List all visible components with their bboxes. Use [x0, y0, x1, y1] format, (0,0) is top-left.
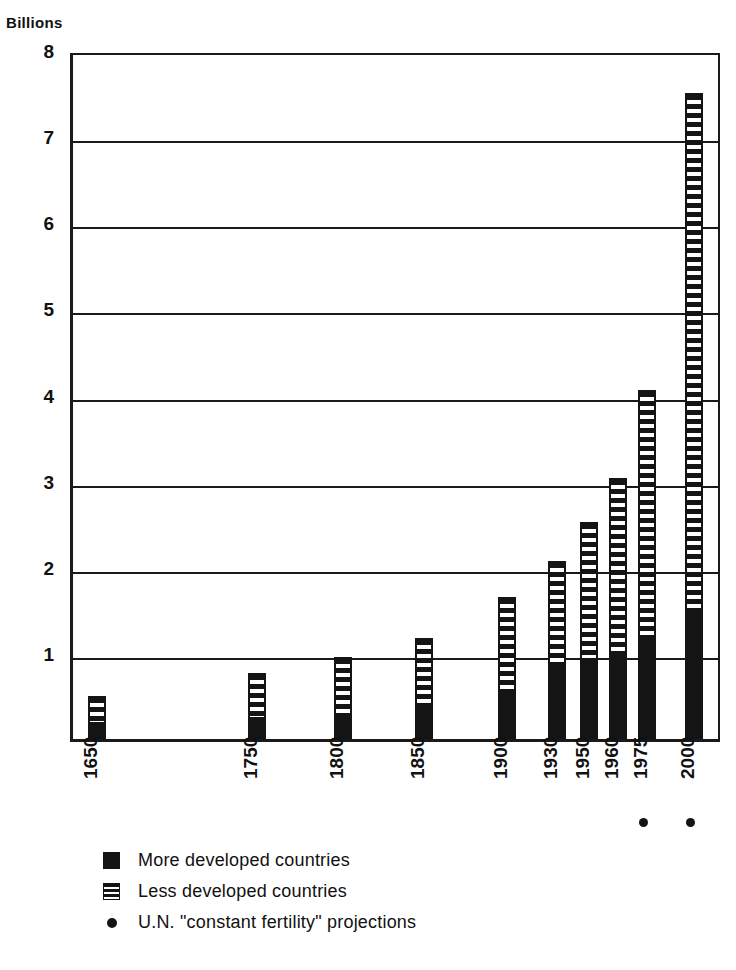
- x-tick-label-1850: 1850: [407, 737, 429, 779]
- x-tick-label-1750: 1750: [240, 737, 262, 779]
- plot-area: [70, 53, 720, 742]
- legend-label: U.N. "constant fertility" projections: [138, 912, 416, 933]
- bar-1930: [548, 561, 566, 739]
- projection-dot-2000: [686, 818, 695, 827]
- legend-item-1: More developed countries: [103, 845, 416, 876]
- bar-segment-less-developed-1800: [336, 659, 350, 717]
- bar-segment-less-developed-1975: [640, 392, 654, 639]
- bar-segment-more-developed-1900: [500, 694, 514, 737]
- y-tick-label-4: 4: [8, 386, 54, 408]
- legend-item-3: U.N. "constant fertility" projections: [103, 907, 416, 938]
- dot-marker-icon: [103, 914, 120, 931]
- gridline-5: [73, 313, 718, 315]
- x-tick-label-2000: 2000: [677, 737, 699, 779]
- x-tick-label-1950: 1950: [572, 737, 594, 779]
- bar-segment-less-developed-1900: [500, 599, 514, 698]
- population-bar-chart: Billions 12345678 1650175018001850190019…: [0, 0, 736, 970]
- x-tick-label-1900: 1900: [490, 737, 512, 779]
- x-tick-label-1800: 1800: [326, 737, 348, 779]
- bar-segment-more-developed-1960: [611, 651, 625, 737]
- bar-segment-more-developed-1800: [336, 713, 350, 737]
- bar-segment-less-developed-1960: [611, 480, 625, 655]
- bar-1800: [334, 657, 352, 739]
- solid-square-swatch-icon: [103, 852, 120, 869]
- bar-segment-less-developed-1750: [250, 675, 264, 722]
- gridline-7: [73, 141, 718, 143]
- bar-segment-more-developed-2000: [687, 612, 701, 737]
- legend-label: Less developed countries: [138, 881, 347, 902]
- bar-segment-less-developed-1930: [550, 563, 564, 668]
- bar-segment-more-developed-1950: [582, 658, 596, 737]
- legend-item-2: Less developed countries: [103, 876, 416, 907]
- bar-1900: [498, 597, 516, 739]
- bar-segment-less-developed-1850: [417, 640, 431, 711]
- x-tick-label-1650: 1650: [80, 737, 102, 779]
- gridline-4: [73, 400, 718, 402]
- x-tick-label-1975: 1975: [630, 737, 652, 779]
- y-tick-label-7: 7: [8, 127, 54, 149]
- bar-1960: [609, 478, 627, 739]
- y-tick-label-2: 2: [8, 558, 54, 580]
- bar-1650: [88, 696, 106, 739]
- bar-1950: [580, 522, 598, 739]
- bar-1750: [248, 673, 266, 739]
- bar-segment-more-developed-1650: [90, 722, 104, 737]
- bar-segment-more-developed-1930: [550, 664, 564, 737]
- y-tick-label-5: 5: [8, 299, 54, 321]
- bar-segment-less-developed-1950: [582, 524, 596, 662]
- y-tick-label-8: 8: [8, 41, 54, 63]
- y-tick-label-3: 3: [8, 472, 54, 494]
- y-axis-title: Billions: [6, 14, 63, 31]
- x-tick-label-1960: 1960: [601, 737, 623, 779]
- striped-square-swatch-icon: [103, 883, 120, 900]
- bar-1975: [638, 390, 656, 739]
- y-tick-label-1: 1: [8, 644, 54, 666]
- projection-dot-1975: [639, 818, 648, 827]
- bar-segment-more-developed-1975: [640, 635, 654, 737]
- x-tick-label-1930: 1930: [540, 737, 562, 779]
- bar-1850: [415, 638, 433, 739]
- bar-segment-less-developed-2000: [687, 95, 701, 616]
- bar-segment-more-developed-1750: [250, 717, 264, 737]
- gridline-6: [73, 227, 718, 229]
- chart-legend: More developed countriesLess developed c…: [103, 845, 416, 938]
- legend-label: More developed countries: [138, 850, 350, 871]
- bar-segment-more-developed-1850: [417, 707, 431, 737]
- bar-2000: [685, 93, 703, 739]
- y-tick-label-6: 6: [8, 213, 54, 235]
